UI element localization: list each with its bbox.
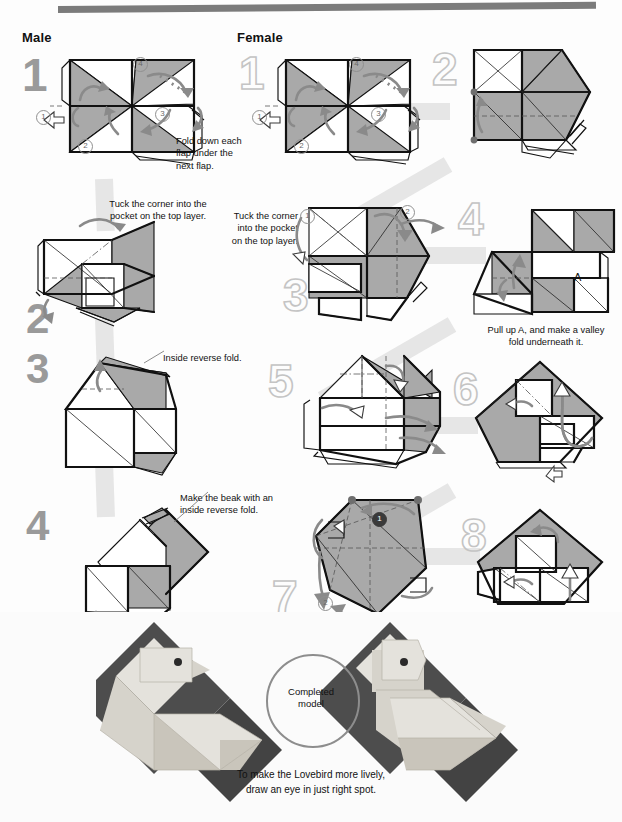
circled-number-female-3-2: 2	[400, 205, 415, 220]
step-number-female-5: 5	[268, 358, 294, 404]
connector-ribbon-f5-f6	[420, 417, 478, 434]
step-number-female-8: 8	[461, 512, 487, 558]
circled-number-female-1-4: 4	[349, 57, 364, 72]
completed-model-label-line1: Completed	[266, 686, 356, 698]
step-number-male-3: 3	[26, 348, 49, 390]
step-number-female-6: 6	[453, 366, 479, 412]
diagram-male-3	[58, 355, 208, 480]
step-number-female-1: 1	[239, 50, 265, 96]
diagram-male-2	[36, 212, 196, 332]
completed-model-label: Completed model	[266, 686, 356, 711]
note-male-4: Make the beak with an inside reverse fol…	[180, 492, 280, 517]
step-number-female-4: 4	[458, 196, 484, 242]
connector-ribbon-f6-f7	[318, 483, 456, 573]
step-number-male-2: 2	[26, 298, 49, 340]
diagram-male-4	[58, 500, 218, 625]
completed-model-label-line2: model	[266, 698, 356, 710]
connector-ribbon-f4-f5	[318, 317, 456, 407]
circled-number-female-1-1: 1	[252, 110, 267, 125]
diagram-female-1	[268, 48, 428, 168]
diagram-female-2	[466, 42, 606, 162]
circled-number-female-1-3: 3	[371, 107, 386, 122]
note-male-2: Tuck the corner into the pocket on the t…	[104, 198, 212, 223]
column-heading-male: Male	[22, 30, 52, 45]
bottom-caption-line1: To make the Lovebird more lively,	[131, 768, 491, 783]
column-heading-female: Female	[237, 30, 283, 45]
connector-ribbon-f2-f3	[323, 157, 453, 242]
note-female-4: Pull up A, and make a valley fold undern…	[482, 324, 610, 349]
circled-number-female-1-2: 2	[294, 139, 309, 154]
diagram-female-3	[305, 202, 445, 327]
diagram-female-4	[470, 202, 620, 322]
step-number-male-4: 4	[26, 505, 49, 547]
diagram-female-5	[300, 352, 450, 477]
step-number-male-1: 1	[22, 52, 48, 98]
diagram-female-6	[478, 358, 618, 483]
diagram-female-8	[478, 506, 618, 626]
note-female-3: Tuck the corner into the pocket on the t…	[228, 210, 298, 247]
circled-number-male-1-2: 2	[78, 139, 93, 154]
circled-number-male-1-3: 3	[155, 107, 170, 122]
label-point-a: A	[574, 270, 581, 285]
circled-number-male-1-1: 1	[36, 110, 51, 125]
step-number-female-2: 2	[432, 46, 458, 92]
circled-number-female-7-2: 2	[318, 596, 333, 611]
bottom-caption: To make the Lovebird more lively, draw a…	[131, 768, 491, 797]
connector-ribbon-male-3-4	[95, 461, 115, 518]
connector-ribbon-f1-f2	[378, 103, 450, 120]
connector-ribbon-male-2-3	[95, 319, 115, 376]
note-male-1: Fold down each flap under the next flap.	[176, 135, 244, 172]
circled-number-male-1-4: 4	[133, 57, 148, 72]
circled-number-female-3-1: 1	[300, 209, 315, 224]
connector-ribbon-f3-f4	[408, 247, 486, 264]
bottom-caption-line2: draw an eye in just right spot.	[131, 783, 491, 798]
step-number-female-3: 3	[283, 272, 309, 318]
circled-number-female-7-1: 1	[372, 512, 387, 527]
header-rule	[58, 2, 596, 13]
note-male-3: Inside reverse fold.	[163, 352, 259, 364]
origami-instruction-page: Male Female 1	[0, 0, 622, 822]
